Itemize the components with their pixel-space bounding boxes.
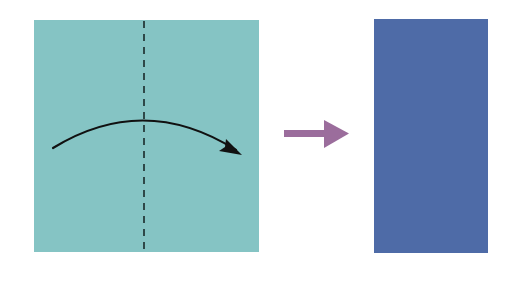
paper-square — [34, 20, 259, 252]
folded-paper-rectangle — [374, 19, 488, 253]
fold-diagram — [0, 0, 526, 284]
next-step-arrow-icon — [284, 120, 349, 148]
